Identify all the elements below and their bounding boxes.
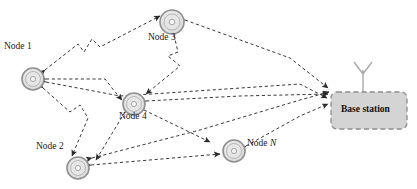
link-node1-node4	[46, 79, 122, 100]
antenna-icon	[354, 62, 372, 92]
node-node1[interactable]	[22, 68, 44, 90]
node-label-node4: Node 4	[119, 111, 147, 121]
link-node3-basestation	[185, 20, 328, 88]
link-layer	[43, 16, 329, 165]
link-node1-basestation	[46, 82, 327, 98]
link-node2-nodeN	[91, 154, 220, 165]
diagram-canvas	[0, 0, 417, 189]
link-node4-nodeN	[144, 110, 210, 142]
node-nodeN[interactable]	[223, 140, 245, 162]
base-station-group[interactable]	[331, 62, 407, 129]
node-node2[interactable]	[67, 157, 89, 179]
node-label-node3: Node 3	[148, 32, 176, 42]
network-topology-diagram: Node 1 Node 2 Node 3 Node 4 Node N Base …	[0, 0, 417, 189]
node-label-node1: Node 1	[4, 41, 32, 51]
node-layer	[22, 10, 245, 179]
node-label-node2: Node 2	[36, 141, 64, 151]
base-station-label: Base station	[341, 104, 390, 114]
link-node1-node3	[45, 16, 160, 70]
node-node3[interactable]	[160, 10, 184, 34]
link-node3-node4	[146, 35, 180, 94]
node-label-nodeN: Node N	[247, 138, 276, 148]
